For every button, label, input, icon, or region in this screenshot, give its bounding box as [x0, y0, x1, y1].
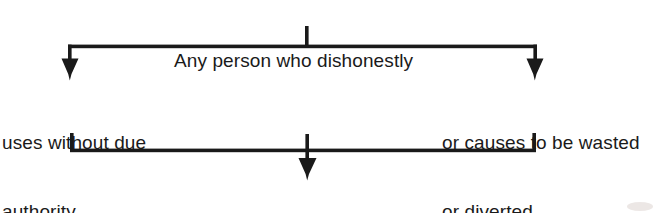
branch-left-line-1: uses without due — [2, 131, 212, 154]
branch-right-line-1: or causes to be wasted — [442, 131, 657, 154]
condition-line-1: Any person who dishonestly — [174, 49, 474, 72]
split-left-stem — [68, 45, 72, 61]
scan-artifact — [627, 202, 653, 211]
split-right-stem — [533, 45, 537, 61]
conclusion-text: any electricity commits an offence — [149, 184, 489, 213]
split-left-arrowhead — [62, 59, 79, 81]
merge-center-stem — [305, 134, 309, 160]
flowchart-diagram: Any person who dishonestly uses without … — [0, 0, 657, 213]
merge-center-arrowhead — [299, 158, 317, 181]
split-right-arrowhead — [527, 59, 544, 81]
condition-text: Any person who dishonestly — [174, 3, 474, 118]
